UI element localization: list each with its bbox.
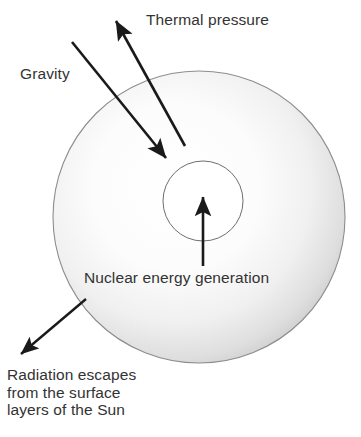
radiation-escape-label: Radiation escapes from the surface layer…: [7, 366, 217, 419]
thermal-pressure-label: Thermal pressure: [146, 12, 269, 28]
gravity-label: Gravity: [20, 66, 70, 82]
radiation-arrow: [21, 299, 86, 354]
nuclear-energy-label: Nuclear energy generation: [84, 270, 269, 286]
radiation-label-line-1: Radiation escapes: [7, 366, 217, 384]
radiation-label-line-3: layers of the Sun: [7, 401, 217, 419]
radiation-label-line-2: from the surface: [7, 384, 217, 402]
diagram-page: Thermal pressure Gravity Nuclear energy …: [0, 0, 361, 437]
